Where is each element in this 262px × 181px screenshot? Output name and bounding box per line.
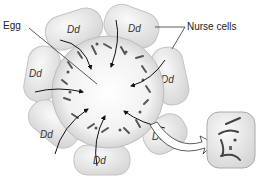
svg-text:Dd: Dd	[29, 68, 42, 79]
svg-text:Dd: Dd	[128, 23, 141, 34]
svg-text:Dd: Dd	[67, 24, 80, 35]
svg-text:Dd: Dd	[40, 129, 53, 140]
svg-text:Dd: Dd	[93, 155, 106, 166]
nurse-cell-diagram: Dd Dd Dd Dd Dd Dd Dd	[0, 0, 262, 181]
egg-cell	[52, 36, 164, 148]
egg-label: Egg	[3, 20, 21, 31]
nurse-cell-bottom: Dd	[74, 145, 130, 175]
inset-magnified-cell	[207, 112, 255, 168]
nurse-cells-leader-lines	[155, 27, 185, 49]
nurse-cells-label: Nurse cells	[187, 21, 236, 32]
